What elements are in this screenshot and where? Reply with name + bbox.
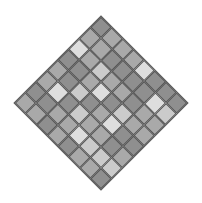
tile-board [13, 15, 188, 190]
